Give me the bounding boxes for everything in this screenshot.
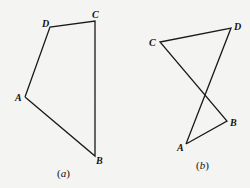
vertex-label-b-D: D (233, 21, 241, 32)
quadrilateral-diagrams: A B C D (a) A B C D (b) (0, 0, 250, 188)
figure-b: A B C D (b) (149, 21, 241, 172)
caption-b: (b) (196, 159, 209, 172)
quadrilateral-b-edges (160, 28, 231, 144)
quadrilateral-a-edges (25, 21, 95, 156)
vertex-label-a-D: D (41, 18, 49, 29)
figure-a: A B C D (a) (14, 9, 103, 180)
vertex-label-b-A: A (176, 142, 184, 153)
vertex-label-a-B: B (95, 155, 103, 166)
vertex-label-b-C: C (149, 37, 156, 48)
vertex-label-a-A: A (14, 92, 22, 103)
caption-a: (a) (57, 167, 70, 180)
vertex-label-b-B: B (229, 117, 237, 128)
vertex-label-a-C: C (92, 9, 99, 20)
